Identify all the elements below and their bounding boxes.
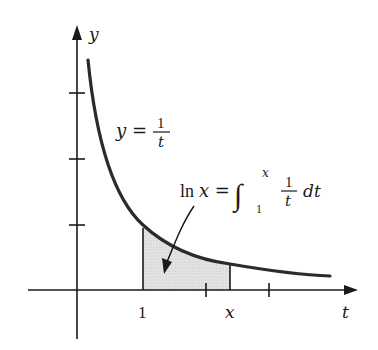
svg-text:dt: dt bbox=[303, 181, 321, 201]
t-axis-arrow-icon bbox=[344, 285, 358, 295]
svg-text:1: 1 bbox=[157, 115, 165, 131]
svg-text:t: t bbox=[158, 133, 165, 151]
log-integral-diagram: y t 1 x y = 1 t ln x = ∫ x 1 1 t dt bbox=[0, 0, 378, 350]
svg-text:1: 1 bbox=[285, 174, 293, 190]
y-axis bbox=[69, 25, 85, 339]
svg-text:y =: y = bbox=[115, 120, 147, 141]
curve-equation-label: y = 1 t bbox=[115, 115, 170, 151]
svg-text:ln: ln bbox=[180, 181, 194, 201]
svg-text:1: 1 bbox=[256, 202, 262, 216]
y-axis-arrow-icon bbox=[72, 25, 82, 40]
y-axis-label: y bbox=[88, 24, 99, 44]
svg-text:x =: x = bbox=[199, 180, 230, 201]
svg-text:t: t bbox=[285, 192, 292, 210]
t-axis-label: t bbox=[342, 302, 349, 322]
tick-label-x: x bbox=[225, 302, 235, 322]
svg-text:∫: ∫ bbox=[232, 178, 244, 214]
svg-text:x: x bbox=[262, 166, 269, 180]
integral-equation-label: ln x = ∫ x 1 1 t dt bbox=[180, 166, 321, 216]
reciprocal-curve bbox=[88, 60, 330, 276]
tick-label-1: 1 bbox=[138, 303, 147, 322]
